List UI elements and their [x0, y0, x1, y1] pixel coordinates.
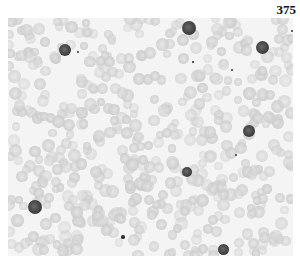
red-blood-cell [123, 24, 132, 33]
red-blood-cell [175, 217, 188, 230]
red-blood-cell [190, 42, 202, 54]
red-blood-cell [148, 115, 160, 127]
red-blood-cell [18, 78, 31, 91]
red-blood-cell [123, 61, 136, 74]
red-blood-cell [40, 37, 50, 47]
red-blood-cell [93, 130, 104, 141]
red-blood-cell [233, 188, 244, 199]
red-blood-cell [128, 198, 137, 207]
red-blood-cell [165, 177, 177, 189]
red-blood-cell [214, 211, 223, 220]
red-blood-cell [48, 129, 56, 137]
red-blood-cell [97, 83, 108, 94]
red-blood-cell [33, 58, 43, 68]
red-blood-cell [156, 219, 167, 230]
red-blood-cell [129, 119, 142, 132]
red-blood-cell [265, 90, 275, 100]
red-blood-cell [43, 201, 51, 209]
dark-speck [235, 154, 237, 156]
red-blood-cell [150, 95, 160, 105]
red-blood-cell [144, 141, 153, 150]
red-blood-cell [79, 119, 89, 129]
red-blood-cell [234, 207, 245, 218]
dark-speck [192, 61, 194, 63]
red-blood-cell [116, 214, 126, 224]
page-number: 375 [277, 2, 297, 18]
red-blood-cell [40, 66, 50, 76]
red-blood-cell [115, 238, 123, 246]
red-blood-cell [198, 244, 208, 254]
red-blood-cell [70, 243, 83, 256]
red-blood-cell [107, 34, 116, 43]
red-blood-cell [106, 185, 119, 198]
red-blood-cell [283, 131, 293, 142]
red-blood-cell [117, 87, 128, 98]
red-blood-cell [151, 156, 161, 166]
red-blood-cell [77, 89, 86, 98]
red-blood-cell [33, 23, 44, 34]
red-blood-cell [211, 226, 222, 237]
red-blood-cell [198, 159, 207, 168]
red-blood-cell [129, 143, 139, 153]
red-blood-cell [234, 78, 243, 87]
red-blood-cell [123, 100, 132, 109]
red-blood-cell [39, 170, 51, 182]
red-blood-cell [280, 206, 288, 214]
red-blood-cell [210, 105, 221, 116]
red-blood-cell [158, 190, 169, 201]
red-blood-cell [213, 192, 223, 202]
red-blood-cell [201, 179, 213, 191]
red-blood-cell [57, 109, 66, 118]
red-blood-cell [19, 202, 28, 211]
red-blood-cell [104, 127, 116, 139]
red-blood-cell [168, 144, 177, 153]
red-blood-cell [163, 50, 171, 58]
red-blood-cell [203, 54, 212, 63]
red-blood-cell [166, 156, 179, 169]
red-blood-cell [168, 230, 178, 240]
red-blood-cell [77, 190, 88, 201]
red-blood-cell [149, 241, 159, 251]
red-blood-cell [272, 118, 281, 127]
nucleated-cell [256, 41, 269, 54]
red-blood-cell [66, 130, 75, 139]
red-blood-cell [184, 86, 197, 99]
red-blood-cell [37, 95, 49, 107]
red-blood-cell [68, 149, 80, 161]
red-blood-cell [94, 181, 103, 190]
red-blood-cell [235, 142, 247, 154]
red-blood-cell [67, 178, 77, 188]
red-blood-cell [259, 232, 270, 243]
red-blood-cell [223, 18, 236, 29]
red-blood-cell [197, 83, 208, 94]
red-blood-cell [259, 171, 268, 180]
red-blood-cell [169, 27, 177, 35]
red-blood-cell [94, 67, 105, 78]
red-blood-cell [285, 107, 293, 119]
red-blood-cell [125, 180, 135, 190]
red-blood-cell [214, 162, 223, 171]
red-blood-cell [110, 116, 119, 125]
red-blood-cell [122, 115, 131, 124]
red-blood-cell [234, 238, 244, 248]
red-blood-cell [286, 194, 293, 203]
red-blood-cell [185, 109, 197, 121]
red-blood-cell [135, 30, 143, 38]
red-blood-cell [241, 159, 250, 168]
red-blood-cell [8, 18, 17, 27]
red-blood-cell [102, 168, 114, 180]
red-blood-cell [14, 100, 25, 111]
red-blood-cell [39, 245, 49, 255]
red-blood-cell [234, 96, 242, 104]
red-blood-cell [278, 95, 291, 108]
red-blood-cell [229, 173, 238, 182]
red-blood-cell [34, 78, 46, 90]
red-blood-cell [241, 44, 253, 56]
red-blood-cell [80, 42, 88, 50]
red-blood-cell [220, 112, 232, 124]
red-blood-cell [50, 213, 60, 223]
red-blood-cell [162, 203, 173, 214]
nucleated-cell [243, 125, 255, 137]
red-blood-cell [134, 225, 144, 235]
red-blood-cell [126, 158, 139, 171]
